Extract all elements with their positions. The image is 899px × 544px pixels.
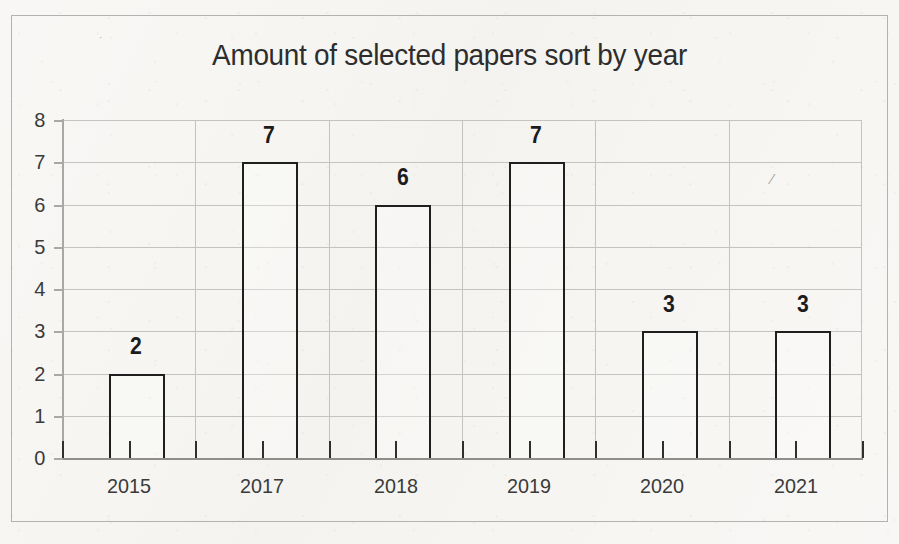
y-axis-tick: [54, 247, 63, 249]
bar-value-2021: 3: [775, 291, 830, 318]
y-axis-tick: [54, 205, 63, 207]
y-axis-label-6: 6: [17, 193, 46, 217]
bar-2021[interactable]: [775, 331, 831, 458]
x-axis-tick: [195, 441, 197, 458]
gridline-vertical: [861, 120, 862, 458]
y-axis-label-1: 1: [17, 404, 46, 428]
bar-value-2019: 7: [508, 122, 563, 149]
x-axis-tick: [462, 441, 464, 458]
x-axis-line: [61, 458, 863, 460]
x-axis-label-2020: 2020: [599, 474, 725, 498]
chart-title: Amount of selected papers sort by year: [31, 38, 867, 72]
bar-2017[interactable]: [242, 162, 298, 458]
bar-value-2017: 7: [242, 122, 297, 149]
x-axis-tick: [529, 441, 531, 458]
x-axis-tick: [62, 441, 64, 458]
x-axis-label-2015: 2015: [66, 474, 192, 498]
y-axis-tick: [54, 374, 63, 376]
x-axis-tick: [262, 441, 264, 458]
gridline-vertical: [462, 120, 463, 458]
bar-2019[interactable]: [509, 162, 565, 458]
y-axis-label-5: 5: [17, 235, 46, 259]
y-axis-label-2: 2: [17, 362, 46, 386]
x-axis-tick: [862, 441, 864, 458]
y-axis-tick: [54, 120, 63, 122]
x-axis-label-2017: 2017: [199, 474, 325, 498]
bar-2018[interactable]: [375, 205, 431, 459]
x-axis-tick: [729, 441, 731, 458]
gridline-vertical: [729, 120, 730, 458]
x-axis-tick: [595, 441, 597, 458]
bar-2020[interactable]: [642, 331, 698, 458]
x-axis-tick: [662, 441, 664, 458]
x-axis-tick: [795, 441, 797, 458]
gridline-vertical: [595, 120, 596, 458]
y-axis-tick: [54, 289, 63, 291]
gridline-vertical: [329, 120, 330, 458]
x-axis-label-2018: 2018: [333, 474, 459, 498]
y-axis-label-7: 7: [17, 150, 46, 174]
bar-value-2015: 2: [108, 333, 163, 360]
x-axis-tick: [395, 441, 397, 458]
y-axis-tick: [54, 162, 63, 164]
y-axis-label-0: 0: [17, 446, 46, 470]
y-axis-tick: [54, 416, 63, 418]
bar-2015[interactable]: [109, 374, 165, 459]
bar-value-2018: 6: [375, 164, 430, 191]
plot-area: [62, 120, 862, 458]
x-axis-label-2019: 2019: [466, 474, 592, 498]
y-axis-label-8: 8: [17, 108, 46, 132]
bar-value-2020: 3: [642, 291, 697, 318]
scanned-chart-page: Amount of selected papers sort by year: [0, 0, 899, 544]
x-axis-label-2021: 2021: [733, 474, 859, 498]
x-axis-tick: [129, 441, 131, 458]
y-axis-label-4: 4: [17, 277, 46, 301]
y-axis-tick: [54, 331, 63, 333]
y-axis-tick: [54, 458, 63, 460]
gridline-vertical: [195, 120, 196, 458]
y-axis-label-3: 3: [17, 319, 46, 343]
x-axis-tick: [329, 441, 331, 458]
